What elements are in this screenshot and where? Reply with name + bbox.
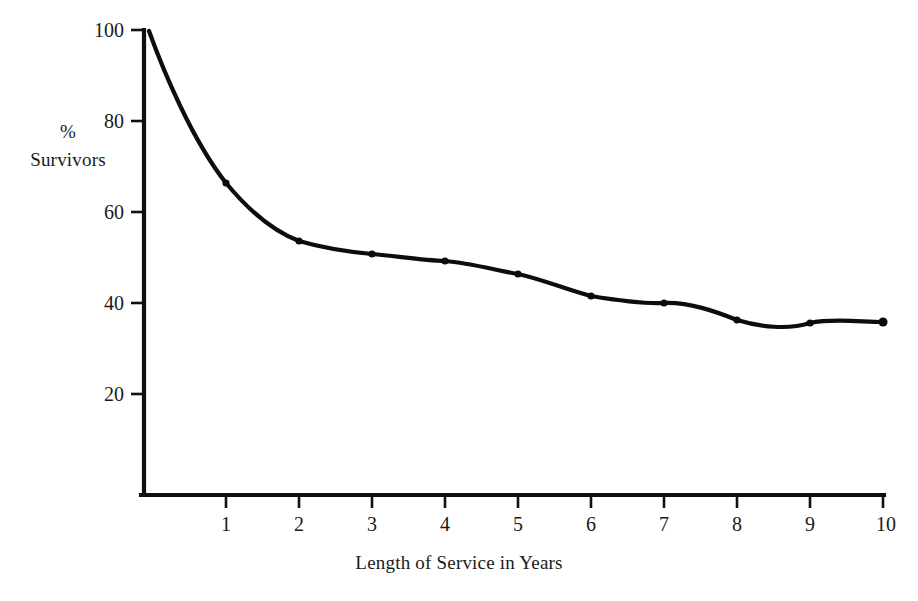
x-tick-label-8: 8 xyxy=(732,513,742,535)
x-tick-label-7: 7 xyxy=(659,513,669,535)
survival-curve-chart: 100 80 60 40 20 1 2 3 4 5 6 7 xyxy=(0,0,918,601)
figure-root: 100 80 60 40 20 1 2 3 4 5 6 7 xyxy=(0,0,918,601)
data-point-year-4 xyxy=(441,257,448,264)
x-axis-tick-labels: 1 2 3 4 5 6 7 8 9 10 xyxy=(221,513,896,535)
figure-caption xyxy=(232,594,652,601)
y-tick-label-60: 60 xyxy=(104,201,124,223)
y-axis-title: % Survivors xyxy=(18,118,118,173)
y-tick-label-40: 40 xyxy=(104,292,124,314)
x-tick-label-4: 4 xyxy=(440,513,450,535)
x-tick-label-10: 10 xyxy=(876,513,896,535)
data-point-year-6 xyxy=(587,292,594,299)
data-point-year-9 xyxy=(806,319,813,326)
data-point-year-7 xyxy=(660,299,667,306)
x-tick-label-6: 6 xyxy=(586,513,596,535)
y-axis-tick-labels: 100 80 60 40 20 xyxy=(94,19,124,405)
survival-curve-line xyxy=(149,31,883,327)
y-tick-label-100: 100 xyxy=(94,19,124,41)
data-point-year-8 xyxy=(733,316,740,323)
data-point-year-10 xyxy=(878,317,887,326)
y-axis-title-line-1: % xyxy=(18,118,118,146)
x-tick-label-2: 2 xyxy=(294,513,304,535)
x-tick-label-3: 3 xyxy=(367,513,377,535)
data-point-year-5 xyxy=(514,270,521,277)
data-point-year-2 xyxy=(295,237,302,244)
y-axis-title-line-2: Survivors xyxy=(18,146,118,174)
x-tick-label-1: 1 xyxy=(221,513,231,535)
x-tick-label-5: 5 xyxy=(513,513,523,535)
data-point-year-3 xyxy=(368,250,375,257)
x-tick-label-9: 9 xyxy=(805,513,815,535)
y-tick-label-20: 20 xyxy=(104,383,124,405)
data-point-year-1 xyxy=(222,179,229,186)
x-axis-title: Length of Service in Years xyxy=(309,552,609,574)
data-point-markers xyxy=(222,179,887,326)
